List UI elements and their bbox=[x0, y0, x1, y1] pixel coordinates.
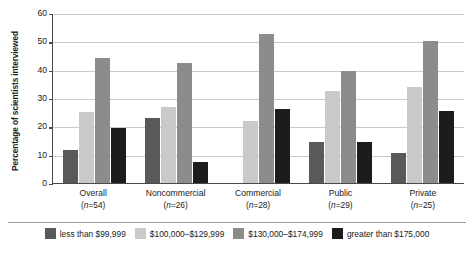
bar bbox=[161, 107, 176, 184]
bar bbox=[79, 112, 94, 183]
legend-divider bbox=[8, 222, 466, 223]
x-axis-group-label: Private(n=25) bbox=[382, 188, 464, 218]
group-sample-size: (n=25) bbox=[382, 200, 464, 212]
legend-label: less than $99,999 bbox=[60, 229, 126, 239]
group-name: Noncommercial bbox=[134, 188, 216, 200]
x-axis-group-label: Commercial(n=28) bbox=[217, 188, 299, 218]
legend-label: greater than $175,000 bbox=[347, 229, 429, 239]
bar bbox=[439, 111, 454, 183]
group-sample-size: (n=26) bbox=[134, 200, 216, 212]
y-axis-tick bbox=[49, 184, 53, 185]
legend-item: $100,000–$129,999 bbox=[135, 228, 225, 239]
bar bbox=[259, 34, 274, 183]
group-name: Public bbox=[299, 188, 381, 200]
bar bbox=[177, 63, 192, 183]
y-axis-tick-label: 50 bbox=[19, 37, 47, 46]
plot-area: 6050403020100 bbox=[52, 14, 464, 184]
y-axis-tick-label: 40 bbox=[19, 66, 47, 75]
group-sample-size: (n=29) bbox=[299, 200, 381, 212]
bar bbox=[357, 142, 372, 183]
y-axis-tick-label: 0 bbox=[19, 179, 47, 188]
legend-swatch bbox=[233, 228, 244, 239]
group-sample-size: (n=28) bbox=[217, 200, 299, 212]
bar bbox=[63, 150, 78, 183]
legend-item: less than $99,999 bbox=[45, 228, 126, 239]
bar bbox=[95, 58, 110, 183]
bar bbox=[275, 109, 290, 183]
y-axis-tick-label: 10 bbox=[19, 151, 47, 160]
x-axis-group-label: Noncommercial(n=26) bbox=[134, 188, 216, 218]
bar bbox=[309, 142, 324, 183]
bar bbox=[325, 91, 340, 183]
x-axis-group-label: Overall(n=54) bbox=[52, 188, 134, 218]
bar-group bbox=[135, 14, 217, 183]
bar-groups bbox=[53, 14, 464, 183]
group-name: Overall bbox=[52, 188, 134, 200]
bar bbox=[341, 71, 356, 183]
bar bbox=[243, 121, 258, 183]
y-axis-tick-label: 30 bbox=[19, 94, 47, 103]
group-sample-size: (n=54) bbox=[52, 200, 134, 212]
legend-swatch bbox=[45, 228, 56, 239]
bar bbox=[111, 128, 126, 183]
legend-item: greater than $175,000 bbox=[332, 228, 429, 239]
legend-label: $130,000–$174,999 bbox=[248, 229, 323, 239]
bar bbox=[391, 153, 406, 183]
y-axis-tick-label: 20 bbox=[19, 122, 47, 131]
bar-group bbox=[382, 14, 464, 183]
bar-group bbox=[217, 14, 299, 183]
legend-label: $100,000–$129,999 bbox=[150, 229, 225, 239]
x-axis-group-label: Public(n=29) bbox=[299, 188, 381, 218]
legend-item: $130,000–$174,999 bbox=[233, 228, 323, 239]
bar bbox=[193, 162, 208, 183]
legend: less than $99,999$100,000–$129,999$130,0… bbox=[0, 228, 474, 239]
bar-group bbox=[53, 14, 135, 183]
group-name: Commercial bbox=[217, 188, 299, 200]
x-axis-labels: Overall(n=54)Noncommercial(n=26)Commerci… bbox=[52, 188, 464, 218]
legend-swatch bbox=[135, 228, 146, 239]
bar-group bbox=[300, 14, 382, 183]
bar bbox=[423, 41, 438, 183]
y-axis-tick-label: 60 bbox=[19, 9, 47, 18]
group-name: Private bbox=[382, 188, 464, 200]
legend-swatch bbox=[332, 228, 343, 239]
bar-chart-figure: Percentage of scientists interviewed 605… bbox=[0, 0, 474, 256]
bar bbox=[407, 87, 422, 183]
bar bbox=[145, 118, 160, 183]
